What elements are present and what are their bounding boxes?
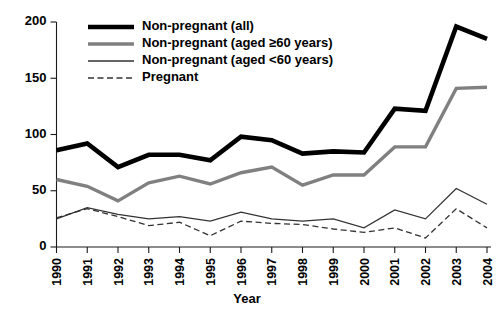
- legend-label-1: Non-pregnant (aged ≥60 years): [142, 35, 333, 50]
- x-axis-tick-label: 1990: [50, 258, 64, 286]
- x-axis-tick-label: 2004: [481, 258, 495, 286]
- line-chart: 050100150200 199019911992199319941995199…: [0, 0, 502, 318]
- y-axis-tick-label: 50: [32, 182, 46, 197]
- y-axis-tick-label: 0: [39, 238, 46, 253]
- x-axis-tick-label: 1995: [204, 258, 218, 286]
- x-axis-tick-label: 1999: [327, 258, 341, 286]
- legend-label-3: Pregnant: [142, 69, 199, 84]
- x-axis-tick-label: 2003: [450, 258, 464, 286]
- x-axis-tick-label: 1991: [81, 258, 95, 286]
- legend-label-2: Non-pregnant (aged <60 years): [142, 52, 333, 67]
- x-axis-tick-label: 1998: [296, 258, 310, 286]
- x-axis-tick-label: 1997: [265, 258, 279, 286]
- x-axis-tick-label: 1993: [142, 258, 156, 286]
- x-axis-tick-label: 1994: [173, 258, 187, 286]
- x-axis-tick-label: 1996: [235, 258, 249, 286]
- chart-figure: 050100150200 199019911992199319941995199…: [0, 0, 502, 318]
- x-axis-tick-label: 1992: [112, 258, 126, 286]
- y-axis-tick-label: 150: [25, 70, 47, 85]
- x-axis-tick-label: 2001: [388, 258, 402, 286]
- y-axis-tick-label: 200: [25, 13, 47, 28]
- legend-label-0: Non-pregnant (all): [142, 18, 254, 33]
- x-axis-tick-label: 2000: [358, 258, 372, 286]
- x-axis-tick-label: 2002: [419, 258, 433, 286]
- y-axis-tick-label: 100: [25, 126, 47, 141]
- x-axis-title: Year: [233, 291, 260, 306]
